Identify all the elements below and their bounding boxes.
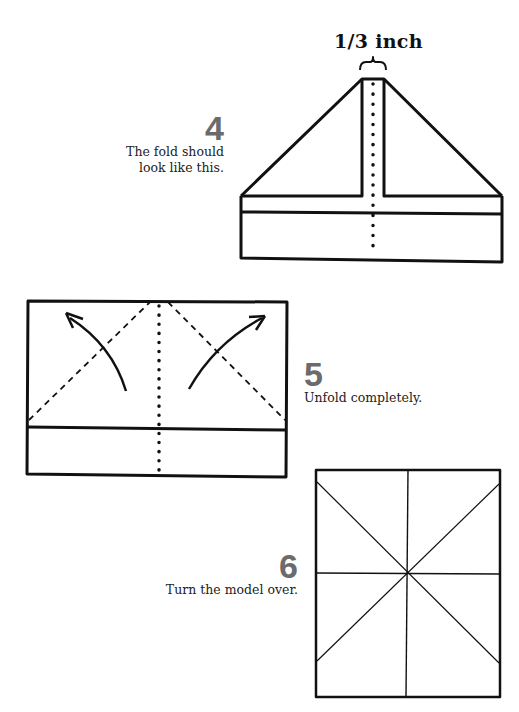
step-number: 4 xyxy=(96,112,224,144)
step-5-diagram xyxy=(27,301,287,477)
measure-brace-icon xyxy=(360,57,386,70)
step-6: 6 Turn the model over. xyxy=(130,550,298,598)
step-5: 5 Unfold completely. xyxy=(304,358,422,406)
bottom-fold-line xyxy=(28,427,286,430)
step-instruction: Turn the model over. xyxy=(130,582,298,598)
left-diagonal-crease xyxy=(29,302,150,420)
right-diagonal-crease xyxy=(168,302,285,420)
step-instruction-line-1: The fold should xyxy=(96,144,224,160)
vertical-crease xyxy=(406,470,408,697)
step-number: 5 xyxy=(304,358,422,390)
diagrams-canvas xyxy=(0,0,519,712)
step-instruction: Unfold completely. xyxy=(304,390,422,406)
step-6-diagram xyxy=(316,470,500,697)
measure-label: 1/3 inch xyxy=(334,30,423,52)
step-4-diagram xyxy=(241,57,502,262)
step-4: 4 The fold should look like this. xyxy=(96,112,224,176)
right-unfold-arrow xyxy=(189,318,262,389)
step-number: 6 xyxy=(130,550,298,582)
step-instruction-line-2: look like this. xyxy=(96,160,224,176)
fold-band-line xyxy=(241,212,502,214)
triangle-flap-outline xyxy=(241,79,502,196)
left-unfold-arrow xyxy=(70,318,126,391)
